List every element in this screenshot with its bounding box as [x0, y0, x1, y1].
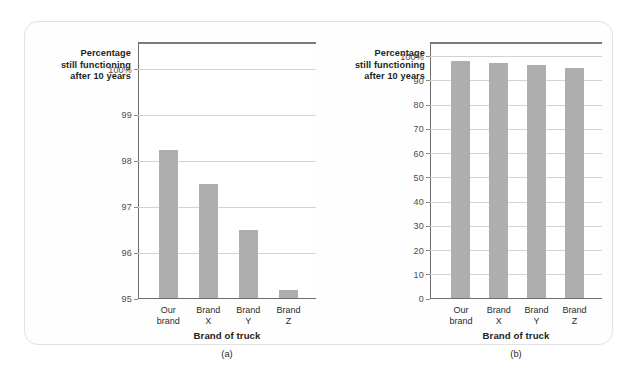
y-axis-title-line-3: after 10 years	[325, 71, 425, 83]
y-tick-label-b-40: 40	[414, 197, 424, 207]
plot-top-rule-b	[430, 42, 602, 44]
subfigure-caption-a: (a)	[138, 348, 316, 359]
chart-panel-a: Percentage still functioning after 10 ye…	[25, 22, 325, 344]
x-tick-label-b-2: Brand Y	[525, 305, 549, 327]
plot-area-b: 0102030405060708090100%Our brandBrand XB…	[430, 42, 602, 299]
y-tick-label-b-60: 60	[414, 149, 424, 159]
subfigure-caption-b: (b)	[430, 348, 602, 359]
y-tick-label-b-0: 0	[419, 294, 424, 304]
y-axis-title-line-1: Percentage	[31, 48, 131, 60]
y-tick-mark-b-90	[426, 80, 430, 81]
bar-b-0	[451, 61, 470, 298]
x-axis-title-b: Brand of truck	[430, 330, 602, 341]
x-tick-label-a-2: Brand Y	[236, 305, 260, 327]
y-tick-mark-b-40	[426, 202, 430, 203]
y-tick-label-b-30: 30	[414, 221, 424, 231]
y-tick-mark-b-10	[426, 274, 430, 275]
y-tick-label-a-97: 97	[122, 202, 132, 212]
y-tick-label-a-96: 96	[122, 248, 132, 258]
bar-a-2	[239, 230, 258, 297]
y-tick-label-a-99: 99	[122, 110, 132, 120]
y-tick-mark-b-100	[426, 56, 430, 57]
gridline-a-99	[138, 115, 316, 116]
y-tick-mark-b-80	[426, 105, 430, 106]
y-tick-label-a-95: 95	[122, 294, 132, 304]
y-tick-label-b-50: 50	[414, 173, 424, 183]
bar-b-2	[527, 65, 546, 298]
x-axis-title-a: Brand of truck	[138, 330, 316, 341]
x-tick-label-a-3: Brand Z	[276, 305, 300, 327]
x-tick-label-a-1: Brand X	[196, 305, 220, 327]
y-axis-spine-a	[138, 42, 139, 299]
y-tick-mark-b-30	[426, 226, 430, 227]
y-tick-mark-b-0	[426, 299, 430, 300]
y-tick-label-a-98: 98	[122, 156, 132, 166]
y-tick-label-b-10: 10	[414, 270, 424, 280]
gridline-a-100	[138, 69, 316, 70]
y-tick-mark-a-96	[134, 253, 138, 254]
y-tick-label-b-100: 100%	[400, 52, 424, 62]
y-tick-label-b-90: 90	[414, 76, 424, 86]
y-tick-label-a-100: 100%	[108, 65, 132, 75]
y-tick-label-b-20: 20	[414, 246, 424, 256]
bar-b-3	[565, 68, 584, 297]
y-tick-label-b-70: 70	[414, 124, 424, 134]
x-tick-label-b-0: Our brand	[449, 305, 472, 327]
y-tick-mark-b-50	[426, 177, 430, 178]
bar-a-1	[199, 184, 218, 297]
figure-card: Percentage still functioning after 10 ye…	[24, 21, 613, 345]
x-tick-label-a-0: Our brand	[157, 305, 180, 327]
y-tick-mark-a-100	[134, 69, 138, 70]
y-tick-label-b-80: 80	[414, 100, 424, 110]
x-tick-label-b-3: Brand Z	[562, 305, 586, 327]
y-tick-mark-a-97	[134, 207, 138, 208]
bar-a-0	[159, 150, 178, 298]
bar-a-3	[279, 290, 298, 298]
bar-b-1	[489, 63, 508, 298]
y-tick-mark-b-60	[426, 153, 430, 154]
y-tick-mark-a-98	[134, 161, 138, 162]
x-axis-spine-b	[430, 298, 602, 299]
plot-area-a: 9596979899100%Our brandBrand XBrand YBra…	[138, 42, 316, 299]
y-tick-mark-b-20	[426, 250, 430, 251]
y-tick-mark-a-99	[134, 115, 138, 116]
chart-panel-b: Percentage still functioning after 10 ye…	[325, 22, 614, 344]
gridline-b-100	[430, 56, 602, 57]
plot-top-rule-a	[138, 42, 316, 44]
y-tick-mark-a-95	[134, 299, 138, 300]
y-tick-mark-b-70	[426, 129, 430, 130]
x-tick-label-b-1: Brand X	[487, 305, 511, 327]
x-axis-spine-a	[138, 298, 316, 299]
